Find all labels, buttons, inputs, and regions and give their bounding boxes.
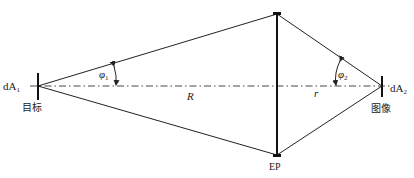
ray-image-top <box>277 14 382 86</box>
phi1-label: φ1 <box>99 68 109 82</box>
ep-top-cap <box>273 12 281 15</box>
image-label: 图像 <box>371 103 391 114</box>
ep-label: EP <box>269 161 281 172</box>
ray-target-top <box>38 14 277 86</box>
dA2-label: dA2 <box>390 82 407 96</box>
R-label: R <box>186 90 194 102</box>
dA1-label: dA1 <box>3 80 20 94</box>
r-label: r <box>314 87 319 99</box>
phi2-label: φ2 <box>338 68 348 82</box>
ray-image-bottom <box>277 86 382 155</box>
phi1-angle-arrow <box>114 66 116 85</box>
ray-target-bottom <box>38 86 277 155</box>
optics-diagram: dA1 目标 φ1 R r φ2 dA2 图像 EP <box>0 0 414 178</box>
target-label: 目标 <box>22 102 42 113</box>
ep-bottom-cap <box>273 154 281 157</box>
